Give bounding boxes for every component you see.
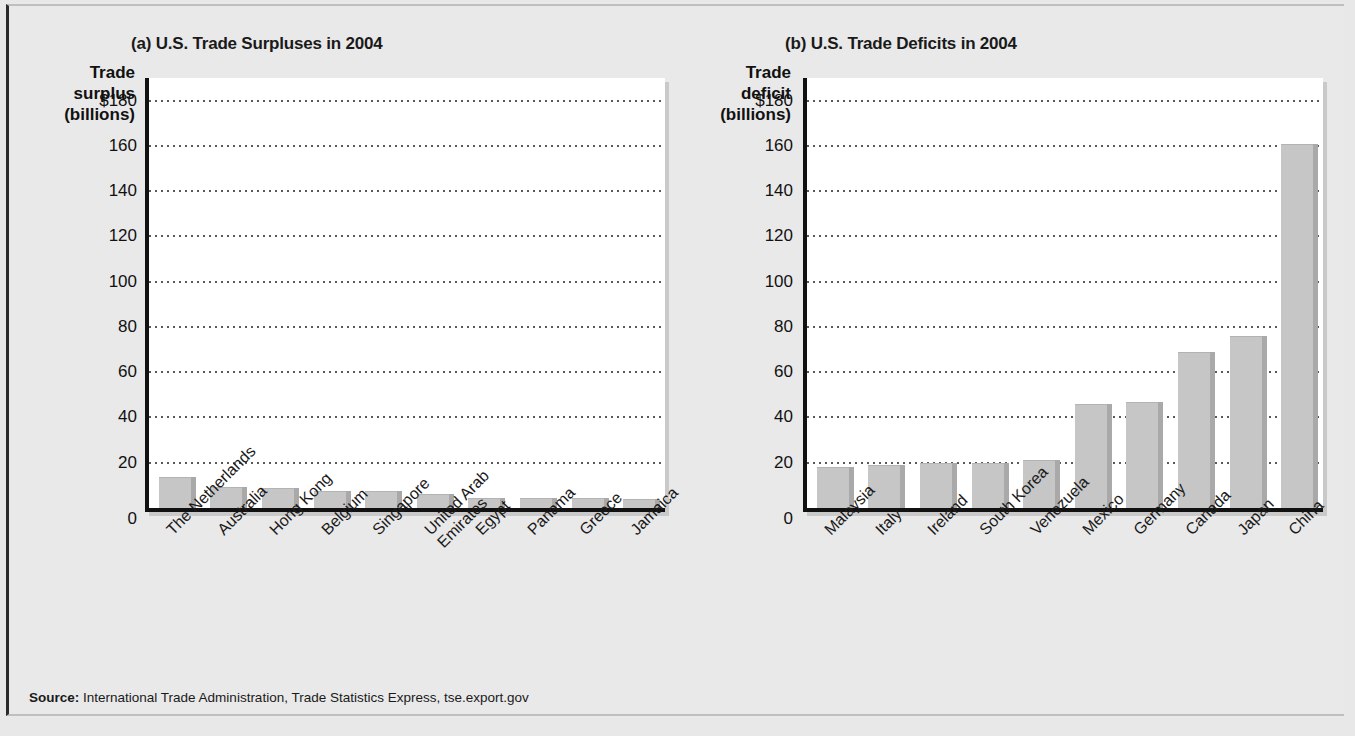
bar-edge <box>900 465 905 508</box>
bar-edge <box>1210 352 1215 508</box>
chart-panel-a: (a) U.S. Trade Surpluses in 2004 Trade s… <box>23 6 683 666</box>
y-tick-label-40: 40 <box>25 408 137 425</box>
bar-slot <box>1230 78 1262 508</box>
panel-b-plot-area <box>803 78 1323 512</box>
bar-slot <box>365 78 397 508</box>
source-note: Source: International Trade Administrati… <box>29 690 529 705</box>
bar-slot <box>262 78 294 508</box>
y-tick-label-180: $180 <box>681 92 793 109</box>
y-tick-label-140: 140 <box>681 182 793 199</box>
panel-b-title: (b) U.S. Trade Deficits in 2004 <box>785 34 1017 54</box>
y-tick-label-60: 60 <box>25 363 137 380</box>
y-tick-label-160: 160 <box>25 137 137 154</box>
bar-slot <box>972 78 1004 508</box>
bar-slot <box>159 78 191 508</box>
y-tick-label-120: 120 <box>681 227 793 244</box>
figure-plate: (a) U.S. Trade Surpluses in 2004 Trade s… <box>6 4 1344 716</box>
bar-slot <box>868 78 900 508</box>
panel-a-plot-shadow-right <box>665 82 669 516</box>
bar-slot <box>520 78 552 508</box>
bar-slot <box>417 78 449 508</box>
y-tick-label-160: 160 <box>681 137 793 154</box>
bar[interactable] <box>1178 352 1210 508</box>
y-tick-label-60: 60 <box>681 363 793 380</box>
bar-slot <box>468 78 500 508</box>
y-tick-label-40: 40 <box>681 408 793 425</box>
bar-slot <box>1178 78 1210 508</box>
panel-a-y-axis-title-line-1: Trade <box>23 62 135 83</box>
panel-b-plot-shadow-right <box>1323 82 1327 516</box>
bar-slot <box>920 78 952 508</box>
panel-b-y-axis-title-line-1: Trade <box>679 62 791 83</box>
bar-slot <box>572 78 604 508</box>
chart-panel-b: (b) U.S. Trade Deficits in 2004 Trade de… <box>679 6 1339 666</box>
panel-a-x-tick-labels: The NetherlandsAustraliaHong KongBelgium… <box>23 518 683 658</box>
bar-slot <box>210 78 242 508</box>
bar-edge <box>1262 336 1267 508</box>
bar-slot <box>1126 78 1158 508</box>
bar-slot <box>817 78 849 508</box>
y-tick-label-0: 0 <box>25 509 137 529</box>
y-tick-label-140: 140 <box>25 182 137 199</box>
y-tick-label-120: 120 <box>25 227 137 244</box>
y-tick-label-180: $180 <box>25 92 137 109</box>
y-tick-label-100: 100 <box>25 273 137 290</box>
y-tick-label-80: 80 <box>25 318 137 335</box>
bar-slot <box>623 78 655 508</box>
bar-slot <box>314 78 346 508</box>
y-tick-label-100: 100 <box>681 273 793 290</box>
source-label: Source: <box>29 690 79 705</box>
panel-b-x-tick-labels: MalaysiaItalyIrelandSouth KoreaVenezuela… <box>679 518 1339 658</box>
y-tick-label-20: 20 <box>681 454 793 471</box>
bar[interactable] <box>1126 402 1158 508</box>
source-text: International Trade Administration, Trad… <box>83 690 529 705</box>
bar-edge <box>1313 144 1318 508</box>
bar-slot <box>1023 78 1055 508</box>
figure-container: (a) U.S. Trade Surpluses in 2004 Trade s… <box>0 0 1355 736</box>
bar[interactable] <box>1230 336 1262 508</box>
bar[interactable] <box>868 465 900 508</box>
panel-b-bars <box>807 78 1323 508</box>
y-tick-label-0: 0 <box>681 509 793 529</box>
y-tick-label-80: 80 <box>681 318 793 335</box>
bar-slot <box>1281 78 1313 508</box>
bar-slot <box>1075 78 1107 508</box>
y-tick-label-20: 20 <box>25 454 137 471</box>
panel-a-plot-area <box>145 78 665 512</box>
bar[interactable] <box>1281 144 1313 508</box>
panel-a-bars <box>149 78 665 508</box>
bar[interactable] <box>972 463 1004 508</box>
panel-a-title: (a) U.S. Trade Surpluses in 2004 <box>131 34 383 54</box>
